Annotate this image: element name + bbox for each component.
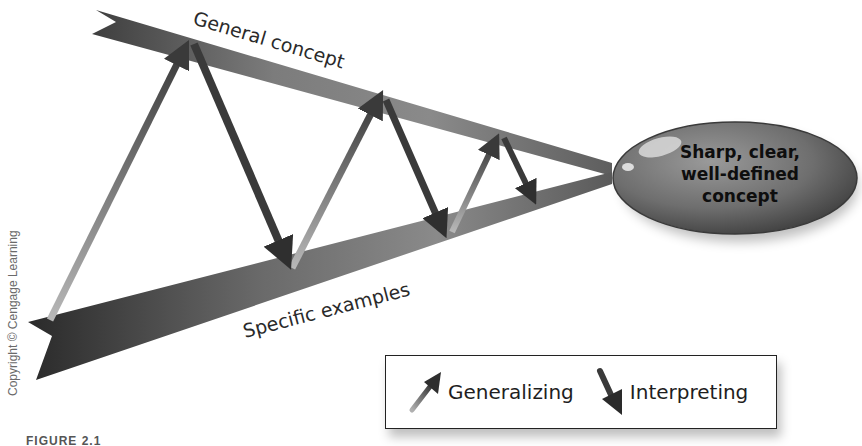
legend-label-generalizing: Generalizing bbox=[448, 380, 574, 404]
legend-item-generalizing: Generalizing bbox=[408, 370, 574, 414]
figure-label: FIGURE 2.1 bbox=[26, 434, 101, 446]
legend: Generalizing Interpreting bbox=[385, 355, 777, 429]
specific-examples-band bbox=[28, 172, 612, 380]
up-right-arrow-icon bbox=[408, 370, 444, 414]
concept-line-3: concept bbox=[702, 186, 778, 206]
general-concept-band bbox=[40, 10, 612, 178]
concept-line-1: Sharp, clear, bbox=[680, 142, 800, 162]
generalizing-arrow-1 bbox=[50, 50, 184, 320]
concept-line-2: well-defined bbox=[681, 164, 799, 184]
copyright-credit: Copyright © Cengage Learning bbox=[6, 230, 20, 396]
legend-item-interpreting: Interpreting bbox=[596, 367, 749, 417]
concept-bubble: Sharp, clear, well-defined concept bbox=[613, 122, 858, 242]
legend-label-interpreting: Interpreting bbox=[630, 380, 749, 404]
down-right-arrow-icon bbox=[596, 367, 626, 417]
